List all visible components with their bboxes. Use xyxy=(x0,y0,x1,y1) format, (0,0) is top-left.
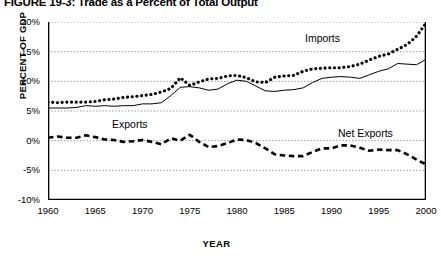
series-label-exports: Exports xyxy=(112,118,148,130)
x-tick-label: 1965 xyxy=(75,206,115,216)
series-line-imports xyxy=(48,23,426,103)
series-label-imports: Imports xyxy=(305,32,340,44)
x-tick-label: 1970 xyxy=(123,206,163,216)
chart-svg xyxy=(48,22,426,200)
x-tick-label: 1985 xyxy=(264,206,304,216)
x-axis-label: YEAR xyxy=(0,238,433,249)
series-label-net-exports: Net Exports xyxy=(338,127,393,139)
x-tick-label: 1975 xyxy=(170,206,210,216)
plot-area xyxy=(48,22,426,200)
y-tick-label: -5% xyxy=(6,165,40,174)
series-line-net-exports xyxy=(48,135,426,165)
y-tick-label: 10% xyxy=(6,76,40,85)
x-tick-label: 1980 xyxy=(217,206,257,216)
x-tick-label: 1990 xyxy=(312,206,352,216)
y-tick-label: 5% xyxy=(6,106,40,115)
figure-title: FIGURE 19-3: Trade as a Percent of Total… xyxy=(4,0,424,8)
x-tick-label: 1995 xyxy=(359,206,399,216)
y-tick-label: 15% xyxy=(6,47,40,56)
y-tick-label: 20% xyxy=(6,17,40,26)
y-tick-label: 0% xyxy=(6,136,40,145)
y-tick-label: -10% xyxy=(6,195,40,204)
x-tick-label: 2000 xyxy=(406,206,441,216)
x-tick-label: 1960 xyxy=(28,206,68,216)
